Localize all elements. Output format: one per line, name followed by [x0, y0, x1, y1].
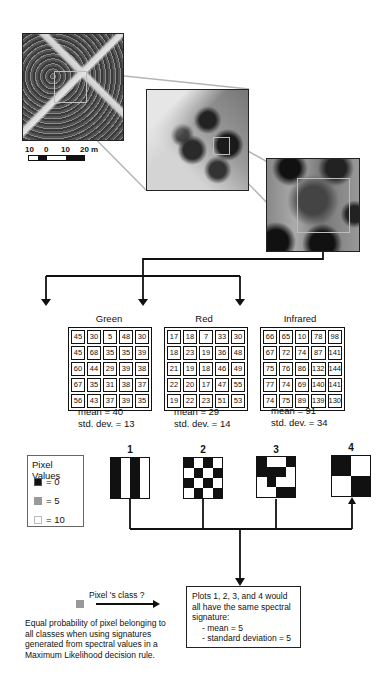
- probability-caption: Equal probability of pixel belonging to …: [25, 618, 170, 660]
- pixel-value-cell: 55: [231, 378, 245, 392]
- red-pixel-grid: 1718733301823193648211918464922201747551…: [164, 327, 248, 411]
- plot-pixel: [203, 488, 213, 498]
- pixel-value-cell: 36: [215, 346, 229, 360]
- plot-pixel: [130, 458, 140, 498]
- legend-item-white: = 10: [34, 514, 65, 525]
- scale-label: 20 m: [80, 145, 98, 154]
- plot-pixel: [286, 477, 296, 487]
- plot-4-pattern: [331, 455, 371, 497]
- plot-1-pattern: [110, 457, 150, 499]
- red-std-dev: std. dev. = 14: [174, 418, 231, 430]
- pixel-value-cell: 77: [263, 378, 277, 392]
- legend-item-black: = 0: [34, 476, 59, 487]
- zoom-image-2: [266, 158, 360, 252]
- plot-pixel: [203, 478, 213, 488]
- plot-pixel: [286, 487, 296, 497]
- legend-label: = 0: [46, 476, 59, 487]
- plot-pixel: [351, 456, 370, 476]
- pixel-value-cell: 7: [199, 330, 213, 344]
- pixel-value-cell: 78: [311, 330, 326, 344]
- pixel-value-cell: 22: [167, 378, 181, 392]
- band-label-green: Green: [69, 313, 149, 324]
- plot-pixel: [194, 458, 204, 468]
- legend-item-gray: = 5: [34, 495, 59, 506]
- pixel-value-cell: 76: [279, 362, 293, 376]
- pixel-values-legend: Pixel Values = 0 = 5 = 10: [27, 455, 84, 527]
- pixel-value-cell: 72: [279, 346, 293, 360]
- plot-pixel: [276, 457, 286, 467]
- plot-pixel: [286, 467, 296, 477]
- plot-pixel: [257, 457, 267, 467]
- pixel-value-cell: 53: [231, 394, 245, 408]
- pixel-value-cell: 66: [263, 330, 277, 344]
- pixel-value-cell: 46: [215, 362, 229, 376]
- pixel-value-cell: 144: [328, 362, 343, 376]
- pixel-value-cell: 18: [199, 362, 213, 376]
- pixel-value-cell: 130: [328, 394, 343, 408]
- plot-pixel: [267, 487, 277, 497]
- pixel-value-cell: 21: [167, 362, 181, 376]
- pixel-value-cell: 37: [135, 378, 149, 392]
- plot-pixel: [257, 467, 267, 477]
- plot-pixel: [194, 468, 204, 478]
- legend-label: = 5: [46, 495, 59, 506]
- pixel-value-cell: 30: [231, 330, 245, 344]
- plot-pixel: [140, 458, 150, 498]
- pixel-value-cell: 38: [119, 378, 133, 392]
- scale-label: 0: [44, 145, 48, 154]
- plot-pixel: [267, 457, 277, 467]
- plot-number-4: 4: [331, 442, 371, 453]
- pixel-value-cell: 47: [215, 378, 229, 392]
- pixel-value-cell: 74: [295, 346, 309, 360]
- infrared-pixel-grid: 6665107898677274871417576861321447774691…: [260, 327, 345, 411]
- red-stats: mean = 29 std. dev. = 14: [174, 406, 231, 430]
- plot-pixel: [276, 467, 286, 477]
- pixel-value-cell: 10: [295, 330, 309, 344]
- green-stats: mean = 40 std. dev. = 13: [78, 406, 135, 430]
- pixel-value-cell: 68: [87, 346, 101, 360]
- pixel-value-cell: 31: [103, 378, 117, 392]
- gray-pixel-icon: [76, 600, 84, 608]
- pixel-value-cell: 98: [328, 330, 343, 344]
- plot-pixel: [267, 467, 277, 477]
- pixel-value-cell: 38: [135, 362, 149, 376]
- pixel-value-cell: 18: [167, 346, 181, 360]
- gray-swatch-icon: [34, 497, 42, 505]
- spectral-signature-box: Plots 1, 2, 3, and 4 would all have the …: [186, 586, 301, 648]
- band-label-infrared: Infrared: [260, 313, 340, 324]
- scale-label: 10: [61, 145, 70, 154]
- pixel-value-cell: 45: [71, 346, 85, 360]
- result-text: Plots 1, 2, 3, and 4 would all have the …: [192, 591, 295, 623]
- pixel-value-cell: 17: [199, 378, 213, 392]
- black-swatch-icon: [34, 478, 42, 486]
- pixel-value-cell: 86: [295, 362, 309, 376]
- pixel-value-cell: 5: [103, 330, 117, 344]
- plot-pixel: [213, 458, 223, 468]
- pixel-value-cell: 65: [279, 330, 293, 344]
- plot-pixel: [184, 468, 194, 478]
- plot-number-1: 1: [110, 444, 150, 455]
- plot-number-2: 2: [183, 444, 223, 455]
- plot-number-3: 3: [256, 444, 296, 455]
- pixel-value-cell: 140: [311, 378, 326, 392]
- plot-pixel: [194, 488, 204, 498]
- infrared-std-dev: std. dev. = 34: [271, 417, 328, 429]
- pixel-value-cell: 141: [328, 346, 343, 360]
- legend-label: = 10: [46, 514, 65, 525]
- white-swatch-icon: [34, 516, 42, 524]
- green-pixel-grid: 4530548304568353539604429393867353138375…: [68, 327, 152, 411]
- plot-pixel: [121, 458, 131, 498]
- plot-pixel: [194, 478, 204, 488]
- pixel-value-cell: 87: [311, 346, 326, 360]
- pixel-value-cell: 30: [135, 330, 149, 344]
- aerial-image: [22, 33, 124, 141]
- pixel-value-cell: 17: [167, 330, 181, 344]
- pixel-value-cell: 45: [71, 330, 85, 344]
- pixel-class-question: Pixel 's class ?: [89, 590, 144, 600]
- result-std-dev: - standard deviation = 5: [192, 633, 295, 644]
- pixel-value-cell: 20: [183, 378, 197, 392]
- pixel-value-cell: 48: [231, 346, 245, 360]
- pixel-value-cell: 60: [71, 362, 85, 376]
- plot-pixel: [111, 458, 121, 498]
- pixel-value-cell: 49: [231, 362, 245, 376]
